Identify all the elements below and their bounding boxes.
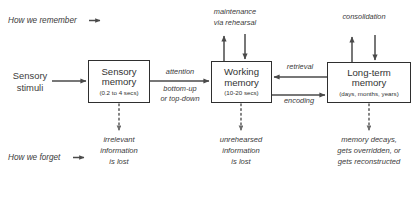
retrieval-label: retrieval	[287, 63, 313, 72]
working-memory-line2: memory	[224, 78, 259, 89]
sensory-loss-line1: irrelevant	[103, 136, 134, 145]
longterm-loss-line3: gets reconstructed	[338, 158, 400, 167]
consolidation-label: consolidation	[342, 13, 385, 22]
sensory-memory-line2: memory	[102, 77, 137, 88]
working-loss-line2: information	[222, 147, 260, 156]
how-we-forget-label: How we forget	[8, 153, 60, 163]
sensory-loss-line2: information	[100, 147, 138, 156]
bottom-up-label: bottom-up	[163, 85, 196, 94]
longterm-loss-line1: memory decays,	[341, 136, 397, 145]
memory-model-diagram: How we remember How we forget Sensory st…	[0, 0, 420, 197]
long-term-memory-duration: (days, months, years)	[339, 90, 399, 98]
sensory-stimuli-line2: stimuli	[17, 82, 44, 93]
working-loss-line1: unrehearsed	[220, 136, 263, 145]
working-memory-duration: (10-20 secs)	[224, 89, 258, 97]
longterm-loss-line2: gets overridden, or	[337, 147, 400, 156]
long-term-memory-line2: memory	[352, 78, 387, 89]
sensory-memory-box[interactable]: Sensory memory (0.2 to 4 secs)	[88, 60, 150, 103]
maintenance-label-line1: maintenance	[214, 8, 256, 17]
how-we-remember-label: How we remember	[8, 16, 77, 26]
attention-label: attention	[166, 68, 194, 77]
or-top-down-label: or top-down	[160, 95, 199, 104]
working-loss-line3: is lost	[231, 158, 250, 167]
maintenance-label-line2: via rehearsal	[214, 19, 256, 28]
sensory-stimuli-line1: Sensory	[13, 70, 47, 81]
working-memory-box[interactable]: Working memory (10-20 secs)	[211, 61, 272, 103]
sensory-memory-duration: (0.2 to 4 secs)	[99, 89, 138, 97]
sensory-loss-line3: is lost	[109, 158, 128, 167]
encoding-label: encoding	[284, 97, 314, 106]
long-term-memory-box[interactable]: Long-term memory (days, months, years)	[327, 62, 411, 103]
